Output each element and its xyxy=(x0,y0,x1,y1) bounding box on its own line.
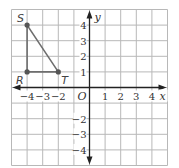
x-tick-label: −2 xyxy=(51,91,66,102)
y-tick-label: −3 xyxy=(72,129,87,140)
point-label-r: R xyxy=(16,74,24,87)
origin-label: O xyxy=(78,90,87,103)
x-tick-label: 3 xyxy=(133,91,139,102)
x-tick-label: −4 xyxy=(20,91,35,102)
y-tick-label: 4 xyxy=(80,20,86,31)
y-tick-label: −2 xyxy=(72,114,87,125)
coordinate-plane: SRT xyO−4−3−212344321−2−3−4 xyxy=(0,0,179,168)
y-axis-label: y xyxy=(94,11,102,24)
x-tick-label: 4 xyxy=(149,91,155,102)
arrow-down-icon xyxy=(87,157,93,165)
point-s xyxy=(25,23,30,28)
x-tick-label: 1 xyxy=(102,91,108,102)
x-tick-label: 2 xyxy=(118,91,124,102)
point-t xyxy=(56,69,61,74)
arrow-up-icon xyxy=(87,11,93,19)
point-r xyxy=(25,69,30,74)
axes xyxy=(13,11,167,165)
x-tick-label: −3 xyxy=(35,91,50,102)
x-axis-label: x xyxy=(160,90,167,103)
y-tick-label: −4 xyxy=(72,145,87,156)
point-label-t: T xyxy=(61,74,69,87)
y-tick-label: 1 xyxy=(80,67,86,78)
y-tick-label: 3 xyxy=(80,36,86,47)
point-label-s: S xyxy=(17,12,24,25)
y-tick-label: 2 xyxy=(80,51,86,62)
